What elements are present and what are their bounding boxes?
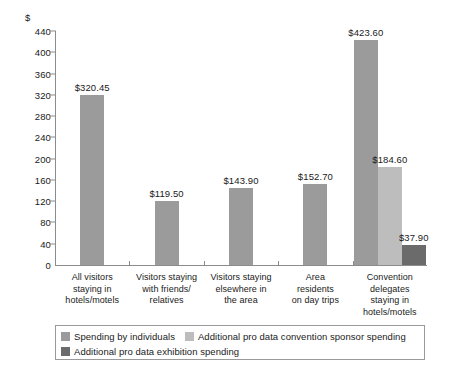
y-axis-tick-mark [50,94,56,95]
bar-value-label: $152.70 [298,171,333,182]
group-separator-tick [204,261,205,266]
legend-item-convention-sponsor-spending: Additional pro data convention sponsor s… [185,331,406,342]
plot-area: $ 44040036032028024020016012080400 $320.… [0,0,463,300]
y-axis-tick-mark [50,73,56,74]
y-axis-tick-label: 200 [35,153,51,164]
category-label: All visitors staying in hotels/motels [55,272,129,307]
bar [229,188,253,265]
legend-swatch-icon [185,332,194,341]
category-label: Convention delegates staying in hotels/m… [353,272,427,318]
legend-label: Spending by individuals [74,331,175,342]
legend-swatch-icon [61,347,70,356]
legend-row-1: Spending by individuals Additional pro d… [61,330,424,343]
legend-row-2: Additional pro data exhibition spending [61,345,424,358]
y-axis-tick-mark [50,201,56,202]
y-axis-tick-label: 120 [35,196,51,207]
y-axis-tick-mark [50,243,56,244]
category-label: Visitors staying elsewhere in the area [204,272,278,307]
bar-value-label: $184.60 [372,154,407,165]
y-axis-tick-label: 360 [35,68,51,79]
y-axis-tick-mark [50,52,56,53]
y-axis-unit-label: $ [25,12,30,23]
legend-label: Additional pro data exhibition spending [74,346,239,357]
legend-item-spending-by-individuals: Spending by individuals [61,331,175,342]
y-axis-tick-label: 440 [35,26,51,37]
legend-item-exhibition-spending: Additional pro data exhibition spending [61,346,239,357]
bar [155,201,179,265]
y-axis-line [55,31,56,266]
bar [402,245,426,265]
group-separator-tick [278,261,279,266]
bar-value-label: $119.50 [149,188,183,199]
bar [80,95,104,265]
y-axis-tick-mark [50,137,56,138]
category-label: Visitors staying with friends/ relatives [129,272,203,307]
legend-label: Additional pro data convention sponsor s… [198,331,406,342]
x-axis-line [55,265,427,266]
bar-value-label: $37.90 [399,232,429,243]
y-axis-tick-label: 280 [35,111,51,122]
y-axis-tick-mark [50,116,56,117]
bar-value-label: $423.60 [348,27,383,38]
bar-value-label: $320.45 [75,82,110,93]
bar [378,167,402,265]
group-separator-tick [129,261,130,266]
bar-chart: $ 44040036032028024020016012080400 $320.… [0,0,463,370]
y-axis-tick-label: 320 [35,89,51,100]
chart-legend: Spending by individuals Additional pro d… [55,325,425,360]
y-axis-tick-label: 240 [35,132,51,143]
y-axis-tick-mark [50,158,56,159]
y-axis-tick-mark [50,31,56,32]
y-axis-tick-label: 400 [35,47,51,58]
bar-value-label: $143.90 [223,175,258,186]
bar [303,184,327,265]
y-axis-tick-mark [50,179,56,180]
bar [354,40,378,265]
y-axis-tick-label: 0 [46,260,51,271]
y-axis-tick-mark [50,222,56,223]
legend-swatch-icon [61,332,70,341]
y-axis-tick-label: 160 [35,174,51,185]
category-label: Area residents on day trips [278,272,352,307]
